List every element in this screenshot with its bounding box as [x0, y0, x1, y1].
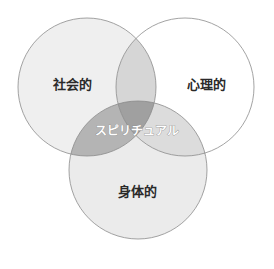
label-physical: 身体的	[118, 184, 157, 199]
label-social: 社会的	[52, 77, 92, 92]
label-spiritual: スピリチュアル	[95, 124, 179, 138]
venn-diagram: 社会的 心理的 身体的 スピリチュアル	[0, 0, 274, 269]
label-psychological: 心理的	[187, 77, 226, 92]
